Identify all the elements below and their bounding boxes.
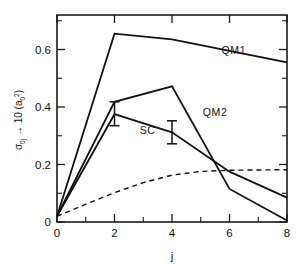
- series-label-qm2: QM2: [203, 106, 228, 118]
- x-tick-label: 4: [169, 227, 176, 239]
- y-axis-label: σ0j → 10 (a02): [13, 90, 27, 150]
- final-state-number: 10: [13, 112, 24, 124]
- units-subscript: 0: [19, 96, 26, 100]
- x-axis-label: j: [170, 250, 174, 262]
- units-close: ): [13, 90, 24, 93]
- arrow-glyph: →: [13, 126, 24, 136]
- y-tick-label: 0.6: [35, 44, 51, 56]
- cross-section-line-chart: 00.20.40.602468 QM1QM2SC j σ0j → 10 (a02…: [0, 0, 306, 268]
- axis-ticks: [57, 15, 287, 222]
- y-axis-label-text: σ0j → 10 (a02): [13, 90, 27, 150]
- axis-tick-labels: 00.20.40.602468: [35, 44, 290, 240]
- x-tick-label: 0: [54, 227, 60, 239]
- y-tick-label: 0.4: [35, 101, 52, 113]
- series-label-qm1: QM1: [222, 44, 247, 56]
- y-tick-label: 0.2: [35, 159, 51, 171]
- chart-figure: 00.20.40.602468 QM1QM2SC j σ0j → 10 (a02…: [0, 0, 306, 268]
- x-tick-label: 6: [226, 227, 232, 239]
- y-tick-label: 0: [45, 216, 51, 228]
- series-label-sc: SC: [140, 124, 156, 136]
- plot-frame: [57, 15, 287, 222]
- x-tick-label: 8: [284, 227, 290, 239]
- series-line-dashed-reference: [57, 170, 287, 217]
- x-tick-label: 2: [111, 227, 117, 239]
